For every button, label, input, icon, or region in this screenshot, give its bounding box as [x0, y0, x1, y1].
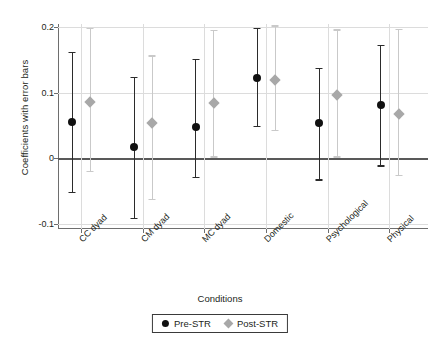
legend-label-post-str: Post-STR [237, 318, 278, 329]
gridline-horizontal [58, 27, 428, 28]
y-axis-tick-mark [54, 224, 58, 225]
y-axis-tick-mark [54, 27, 58, 28]
plot-area: 0.20.10-0.1CC dyadCM dyadMC dyadDomestic… [58, 24, 428, 229]
error-bar-cap [395, 29, 402, 30]
y-axis-line [58, 24, 59, 229]
gridline-horizontal [58, 93, 428, 94]
gridline-vertical [204, 24, 205, 229]
error-bar-cap [334, 29, 341, 30]
error-bar-cap [87, 171, 94, 172]
error-bar-cap [149, 55, 156, 56]
error-bar-cap [254, 28, 261, 29]
error-bar-cap [210, 30, 217, 31]
gridline-horizontal [58, 224, 428, 225]
error-bar-cap [254, 126, 261, 127]
error-bar [398, 29, 399, 175]
y-axis-tick-label: -0.1 [38, 219, 54, 228]
data-point-post-str [331, 90, 342, 101]
legend: Pre-STR Post-STR [152, 314, 288, 333]
error-bar-cap [69, 192, 76, 193]
error-bar-cap [149, 199, 156, 200]
gridline-vertical [266, 24, 267, 229]
x-axis-title: Conditions [0, 293, 440, 304]
data-point-pre-str [68, 118, 76, 126]
error-bar-cap [377, 165, 384, 166]
error-bar-cap [272, 25, 279, 26]
error-bar-cap [131, 218, 138, 219]
gridline-vertical [81, 24, 82, 229]
gridline-vertical [328, 24, 329, 229]
data-point-pre-str [253, 74, 261, 82]
zero-reference-line [58, 158, 428, 160]
error-bar-cap [87, 28, 94, 29]
error-bar-cap [272, 130, 279, 131]
legend-entry-pre-str[interactable]: Pre-STR [162, 318, 211, 329]
error-bar-cap [334, 156, 341, 157]
legend-entry-post-str[interactable]: Post-STR [225, 318, 278, 329]
data-point-pre-str [192, 123, 200, 131]
error-bar-cap [192, 177, 199, 178]
error-bar-cap [131, 77, 138, 78]
y-axis-tick-label: 0.2 [41, 23, 54, 32]
y-axis-title: Coefficients with error bars [19, 23, 30, 213]
data-point-pre-str [130, 143, 138, 151]
data-point-post-str [85, 96, 96, 107]
error-bar-cap [316, 179, 323, 180]
filled-circle-marker-icon [162, 320, 169, 327]
data-point-post-str [270, 75, 281, 86]
x-axis-line [58, 228, 428, 229]
error-bar [195, 59, 196, 177]
x-axis-tick-label: Psychological [324, 198, 370, 244]
error-bar-cap [69, 52, 76, 53]
data-point-pre-str [377, 101, 385, 109]
data-point-post-str [393, 108, 404, 119]
gridline-vertical [143, 24, 144, 229]
error-bar-cap [316, 68, 323, 69]
error-bar-cap [377, 45, 384, 46]
y-axis-tick-label: 0.1 [41, 88, 54, 97]
error-bar-cap [210, 156, 217, 157]
error-bar [213, 30, 214, 156]
gridline-vertical [389, 24, 390, 229]
error-bar-cap [192, 59, 199, 60]
data-point-post-str [208, 97, 219, 108]
legend-label-pre-str: Pre-STR [174, 318, 211, 329]
data-point-pre-str [315, 119, 323, 127]
filled-diamond-marker-icon [223, 319, 233, 329]
error-bar-cap [395, 175, 402, 176]
chart-container: Coefficients with error bars 0.20.10-0.1… [0, 0, 440, 353]
data-point-post-str [146, 117, 157, 128]
y-axis-tick-mark [54, 93, 58, 94]
